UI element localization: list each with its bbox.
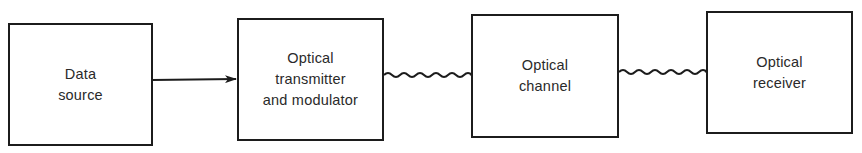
block-optical-channel: Optical channel [471, 14, 619, 138]
block-optical-receiver: Optical receiver [706, 11, 853, 134]
wavy-arrow-channel-to-receiver [619, 70, 707, 74]
arrow-source-to-transmitter [152, 79, 236, 80]
block-label: Optical receiver [753, 52, 806, 94]
block-optical-transmitter: Optical transmitter and modulator [237, 18, 384, 141]
block-data-source: Data source [8, 23, 153, 146]
wavy-arrow-transmitter-to-channel [384, 73, 472, 77]
block-label: Data source [58, 64, 103, 106]
block-label: Optical channel [519, 55, 571, 97]
block-label: Optical transmitter and modulator [263, 48, 358, 111]
